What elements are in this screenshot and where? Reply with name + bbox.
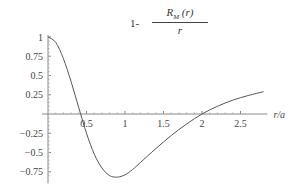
axes: 0.511.522.5r/a10.750.50.25−0.25−0.5−0.75 <box>20 32 285 184</box>
x-axis-label: r/a <box>273 109 285 120</box>
y-tick-label: 0.25 <box>26 89 44 100</box>
y-tick-label: 0.5 <box>31 70 44 81</box>
y-tick-label: −0.75 <box>20 166 43 177</box>
x-tick-label: 1 <box>123 118 128 129</box>
y-tick-label: −0.5 <box>25 147 43 158</box>
y-tick-label: −0.25 <box>20 128 43 139</box>
x-tick-label: 2.5 <box>234 118 247 129</box>
data-curve <box>48 37 264 177</box>
x-tick-label: 1.5 <box>157 118 170 129</box>
x-tick-label: 2 <box>200 118 205 129</box>
y-tick-label: 0.75 <box>26 51 44 62</box>
plot-area: 0.511.522.5r/a10.750.50.25−0.25−0.5−0.75 <box>0 0 302 189</box>
y-tick-label: 1 <box>38 32 43 43</box>
